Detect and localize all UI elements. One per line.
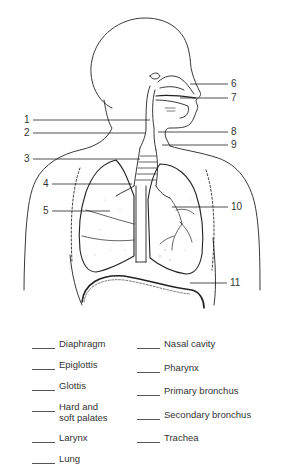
respiratory-diagram bbox=[0, 0, 281, 320]
callout-2: 2 bbox=[24, 128, 30, 138]
answer-blank[interactable] bbox=[137, 442, 160, 443]
callout-1: 1 bbox=[24, 115, 30, 125]
answer-blank[interactable] bbox=[32, 390, 55, 391]
answer-blank[interactable] bbox=[32, 442, 55, 443]
answer-blank[interactable] bbox=[137, 372, 160, 373]
neck-back bbox=[24, 100, 112, 290]
answer-blank[interactable] bbox=[137, 419, 160, 420]
callout-8: 8 bbox=[231, 127, 237, 137]
callout-6: 6 bbox=[231, 79, 237, 89]
answer-blank[interactable] bbox=[32, 348, 55, 349]
answer-blank[interactable] bbox=[32, 411, 55, 412]
callout-11: 11 bbox=[230, 278, 240, 288]
answer-blank[interactable] bbox=[32, 369, 55, 370]
callout-9: 9 bbox=[231, 140, 237, 150]
diaphragm bbox=[82, 276, 204, 308]
callout-5: 5 bbox=[43, 206, 49, 216]
answer-blank[interactable] bbox=[137, 348, 160, 349]
answer-blank[interactable] bbox=[137, 395, 160, 396]
callout-3: 3 bbox=[24, 154, 30, 164]
answer-blank[interactable] bbox=[32, 463, 55, 464]
left-lung bbox=[148, 164, 203, 274]
callout-4: 4 bbox=[43, 179, 49, 189]
callout-10: 10 bbox=[231, 202, 242, 212]
callout-7: 7 bbox=[231, 93, 237, 103]
